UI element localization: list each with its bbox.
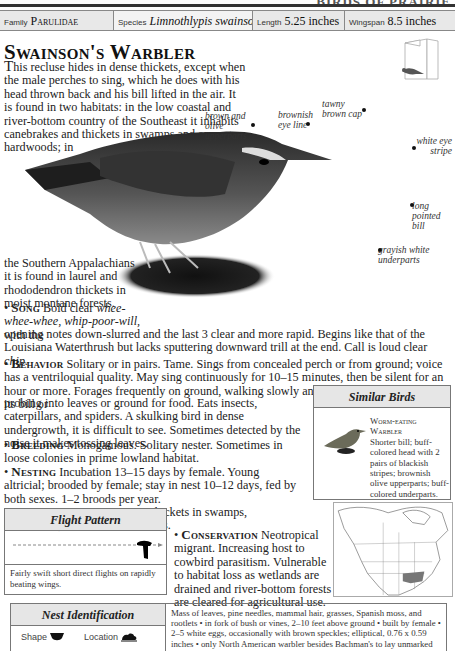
song-text: Bold clear — [43, 301, 96, 315]
location-label: Location — [84, 632, 118, 642]
similar-bird-name: Worm-eating — [370, 416, 450, 426]
callout-dot — [306, 122, 310, 126]
song-text: opening notes down-slurred and the last … — [4, 327, 427, 354]
cup-nest-shape-icon — [50, 632, 64, 642]
nest-identification-box: Nest Identification Shape Location Mass … — [10, 603, 447, 651]
range-map — [333, 502, 453, 597]
flight-path-icon — [5, 531, 166, 565]
callout-cap: tawny brown cap — [322, 99, 364, 119]
callout-dot — [378, 248, 382, 252]
breeding-heading: Breeding — [11, 437, 63, 452]
wingspan-value: 8.5 inches — [388, 14, 437, 29]
worm-eating-warbler-illustration — [322, 424, 366, 456]
callout-eye-line: brownish eye line — [278, 110, 318, 130]
song-heading: Song — [11, 300, 40, 315]
callout-upperparts: brown and olive upperparts — [205, 111, 265, 141]
nesting-section: • Nesting Incubation 13–15 days by femal… — [4, 465, 302, 506]
callout-dot — [251, 123, 255, 127]
similar-birds-heading: Similar Birds — [314, 386, 450, 408]
intro-dropcap: T — [4, 58, 13, 74]
similar-bird-name: Warbler — [370, 426, 450, 436]
similar-bird-description: Shorter bill; buff-colored head with 2 p… — [370, 437, 450, 499]
family-cell: Family Parulidae — [0, 11, 114, 30]
species-label: Species — [118, 18, 146, 27]
similar-birds-box: Similar Birds Worm-eating Warbler Shorte… — [313, 385, 451, 500]
shrub-location-icon — [121, 632, 137, 642]
flight-path-diagram — [5, 531, 166, 565]
similar-bird-entry: Worm-eating Warbler Shorter bill; buff-c… — [370, 416, 450, 499]
callout-underparts: grayish white underparts — [378, 245, 453, 265]
species-value: Limnothlypis swainsonii — [149, 14, 253, 29]
callout-eye-stripe: white eye stripe — [410, 136, 452, 156]
callout-bill: long pointed bill — [412, 201, 454, 231]
callout-dot — [362, 108, 366, 112]
length-cell: Length 5.25 inches — [253, 11, 345, 30]
length-value: 5.25 inches — [284, 14, 339, 29]
callout-dot — [412, 146, 416, 150]
nest-icons-row: Shape Location — [11, 626, 165, 648]
species-cell: Species Limnothlypis swainsonii — [114, 11, 253, 30]
length-label: Length — [257, 18, 281, 27]
nest-description: Mass of leaves, pine needles, mammal hai… — [166, 604, 446, 651]
flight-pattern-caption: Fairly swift short direct flights on rap… — [5, 565, 166, 593]
info-bar: Family Parulidae Species Limnothlypis sw… — [0, 10, 455, 31]
callout-dot — [410, 203, 414, 207]
breeding-section: • Breeding Monogamous. Solitary nester. … — [4, 438, 302, 466]
family-label: Family — [4, 18, 28, 27]
conservation-section: • Conservation Neotropical migrant. Incr… — [174, 528, 332, 609]
perching-bird-silhouette-icon — [400, 37, 442, 81]
wingspan-cell: Wingspan 8.5 inches — [345, 11, 455, 30]
flight-pattern-box: Flight Pattern Fairly swift short direct… — [4, 508, 167, 595]
conservation-heading: Conservation — [181, 527, 258, 542]
shape-label: Shape — [21, 632, 47, 642]
family-value: Parulidae — [31, 14, 79, 29]
nesting-heading: Nesting — [11, 464, 56, 479]
behavior-heading: Behavior — [11, 356, 63, 371]
flight-pattern-heading: Flight Pattern — [5, 509, 166, 531]
nest-identification-heading: Nest Identification — [11, 604, 165, 626]
wingspan-label: Wingspan — [349, 18, 385, 27]
nest-identification-panel: Nest Identification Shape Location — [11, 604, 166, 651]
top-rule — [0, 4, 455, 7]
